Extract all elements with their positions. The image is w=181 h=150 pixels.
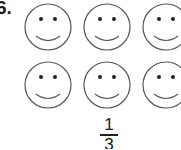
smiley-face-icon (142, 61, 181, 109)
smiley-face-icon (24, 61, 72, 109)
smiley-face-icon (83, 61, 131, 109)
smiley-face-icon (24, 3, 72, 51)
answer-fraction: 1 3 (100, 117, 118, 149)
smiley-face-icon (142, 3, 181, 51)
fraction-numerator: 1 (100, 117, 118, 133)
question-number: 6. (0, 0, 12, 19)
smiley-face-icon (83, 3, 131, 51)
fraction-denominator: 3 (100, 137, 118, 150)
